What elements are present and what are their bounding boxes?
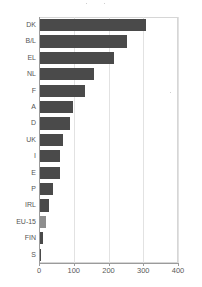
bar-row xyxy=(40,99,178,115)
bar-row xyxy=(40,33,178,49)
bar-chart: DKB/LELNLFADUKIEPIRLEU-15FINS 0100200300… xyxy=(0,0,202,287)
category-label-a: A xyxy=(0,99,36,115)
bar-row xyxy=(40,247,178,263)
bar-s[interactable] xyxy=(40,249,41,261)
x-tick-mark xyxy=(178,263,179,266)
x-tick-label: 400 xyxy=(163,266,193,275)
category-label-uk: UK xyxy=(0,132,36,148)
category-label-p: P xyxy=(0,181,36,197)
bar-row xyxy=(40,83,178,99)
x-tick-label: 0 xyxy=(24,266,54,275)
bar-row xyxy=(40,165,178,181)
category-label-eu-15: EU-15 xyxy=(0,214,36,230)
category-label-e: E xyxy=(0,165,36,181)
bar-el[interactable] xyxy=(40,52,114,64)
x-tick-mark xyxy=(109,263,110,266)
category-axis-labels: DKB/LELNLFADUKIEPIRLEU-15FINS xyxy=(0,17,36,263)
category-label-nl: NL xyxy=(0,66,36,82)
bar-b-l[interactable] xyxy=(40,35,127,47)
bar-row xyxy=(40,148,178,164)
scan-speck xyxy=(86,3,87,4)
bar-irl[interactable] xyxy=(40,199,49,211)
category-label-f: F xyxy=(0,83,36,99)
x-axis-tick-labels: 0100200300400 xyxy=(0,266,202,280)
category-label-d: D xyxy=(0,115,36,131)
bar-i[interactable] xyxy=(40,150,60,162)
category-label-fin: FIN xyxy=(0,230,36,246)
category-label-dk: DK xyxy=(0,17,36,33)
x-tick-mark xyxy=(39,263,40,266)
bar-row xyxy=(40,66,178,82)
scan-speck xyxy=(170,92,171,93)
category-label-s: S xyxy=(0,247,36,263)
bar-row xyxy=(40,181,178,197)
category-label-el: EL xyxy=(0,50,36,66)
bar-f[interactable] xyxy=(40,85,85,97)
bar-uk[interactable] xyxy=(40,134,63,146)
bar-d[interactable] xyxy=(40,117,70,129)
bar-a[interactable] xyxy=(40,101,73,113)
x-tick-label: 100 xyxy=(59,266,89,275)
gridline xyxy=(178,17,179,263)
bar-fin[interactable] xyxy=(40,232,43,244)
bar-e[interactable] xyxy=(40,167,60,179)
x-tick-mark xyxy=(143,263,144,266)
bar-dk[interactable] xyxy=(40,19,146,31)
category-label-b-l: B/L xyxy=(0,33,36,49)
bar-row xyxy=(40,214,178,230)
bar-row xyxy=(40,17,178,33)
bar-row xyxy=(40,132,178,148)
x-tick-mark xyxy=(74,263,75,266)
category-label-i: I xyxy=(0,148,36,164)
scan-speck xyxy=(104,3,105,4)
bar-row xyxy=(40,50,178,66)
x-tick-label: 300 xyxy=(128,266,158,275)
bar-eu-15[interactable] xyxy=(40,216,46,228)
bar-row xyxy=(40,230,178,246)
bar-p[interactable] xyxy=(40,183,53,195)
bars-layer xyxy=(40,17,178,263)
x-tick-label: 200 xyxy=(94,266,124,275)
bar-nl[interactable] xyxy=(40,68,94,80)
bar-row xyxy=(40,115,178,131)
chart-title xyxy=(0,0,202,6)
bar-row xyxy=(40,197,178,213)
category-label-irl: IRL xyxy=(0,197,36,213)
